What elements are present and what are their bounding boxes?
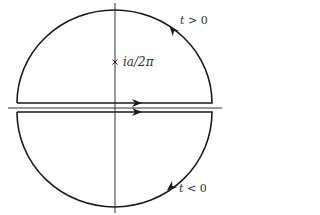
- label-pole-text: ia/2π: [123, 55, 154, 69]
- label-t-positive: t > 0: [180, 15, 208, 26]
- label-t-negative-val: 0: [200, 182, 207, 195]
- label-t-negative-rel: <: [187, 182, 196, 195]
- label-t-positive-rel: >: [188, 14, 197, 27]
- label-t-positive-val: 0: [201, 14, 208, 27]
- label-pole: ia/2π: [123, 56, 154, 68]
- label-t-negative: t < 0: [179, 183, 207, 194]
- label-t-negative-var: t: [179, 182, 183, 195]
- label-t-positive-var: t: [180, 14, 184, 27]
